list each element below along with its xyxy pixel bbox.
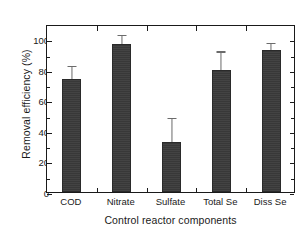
y-tick-label: 0 — [15, 188, 49, 199]
x-tick-major — [147, 188, 148, 193]
y-tick-label: 100 — [15, 35, 49, 46]
error-bar — [167, 24, 177, 192]
y-tick-major — [290, 163, 295, 164]
y-tick-minor — [291, 179, 294, 180]
error-bar-stem — [71, 66, 72, 79]
x-tick-major-top — [147, 26, 148, 31]
y-tick-label: 80 — [15, 65, 49, 76]
y-tick-major — [47, 102, 52, 103]
y-tick-label: 40 — [15, 126, 49, 137]
x-tick-major — [246, 188, 247, 193]
error-bar-stem — [121, 35, 122, 44]
x-tick-label: COD — [60, 196, 81, 207]
x-tick-label: Nitrate — [107, 196, 135, 207]
error-bar-cap — [117, 35, 126, 36]
y-tick-major — [47, 133, 52, 134]
error-bar — [67, 24, 77, 192]
y-tick-minor — [47, 148, 50, 149]
y-tick-major — [290, 41, 295, 42]
x-tick-major — [196, 188, 197, 193]
y-tick-major — [47, 72, 52, 73]
y-tick-minor — [291, 148, 294, 149]
x-tick-major — [97, 188, 98, 193]
y-tick-label: 20 — [15, 157, 49, 168]
x-tick-major-top — [196, 26, 197, 31]
y-tick-minor — [47, 87, 50, 88]
x-axis-title: Control reactor components — [46, 214, 295, 226]
bar-chart-figure: Removal efficiency (%) 020406080100 CODN… — [0, 0, 307, 240]
error-bar-cap — [267, 43, 276, 44]
y-tick-major — [290, 194, 295, 195]
y-tick-minor — [47, 179, 50, 180]
y-tick-major — [290, 102, 295, 103]
y-tick-major — [47, 163, 52, 164]
plot-area — [46, 25, 295, 193]
error-bar-stem — [221, 51, 222, 70]
x-tick-label: Diss Se — [254, 196, 287, 207]
error-bar — [266, 24, 276, 192]
error-bar-cap — [167, 118, 176, 119]
y-tick-minor — [47, 57, 50, 58]
y-tick-minor — [291, 57, 294, 58]
error-bar — [117, 24, 127, 192]
y-tick-major — [47, 41, 52, 42]
error-bar-stem — [271, 43, 272, 50]
error-bar-stem — [171, 118, 172, 142]
error-bar-cap — [67, 66, 76, 67]
error-bar — [216, 24, 226, 192]
y-tick-label: 60 — [15, 96, 49, 107]
y-tick-minor — [291, 87, 294, 88]
y-tick-minor — [47, 118, 50, 119]
x-tick-label: Total Se — [203, 196, 237, 207]
error-bar-cap — [217, 51, 226, 52]
y-tick-major — [290, 133, 295, 134]
y-tick-minor — [291, 118, 294, 119]
x-tick-label: Sulfate — [156, 196, 186, 207]
x-tick-major-top — [246, 26, 247, 31]
y-tick-major — [47, 194, 52, 195]
y-tick-major — [290, 72, 295, 73]
x-tick-major-top — [97, 26, 98, 31]
